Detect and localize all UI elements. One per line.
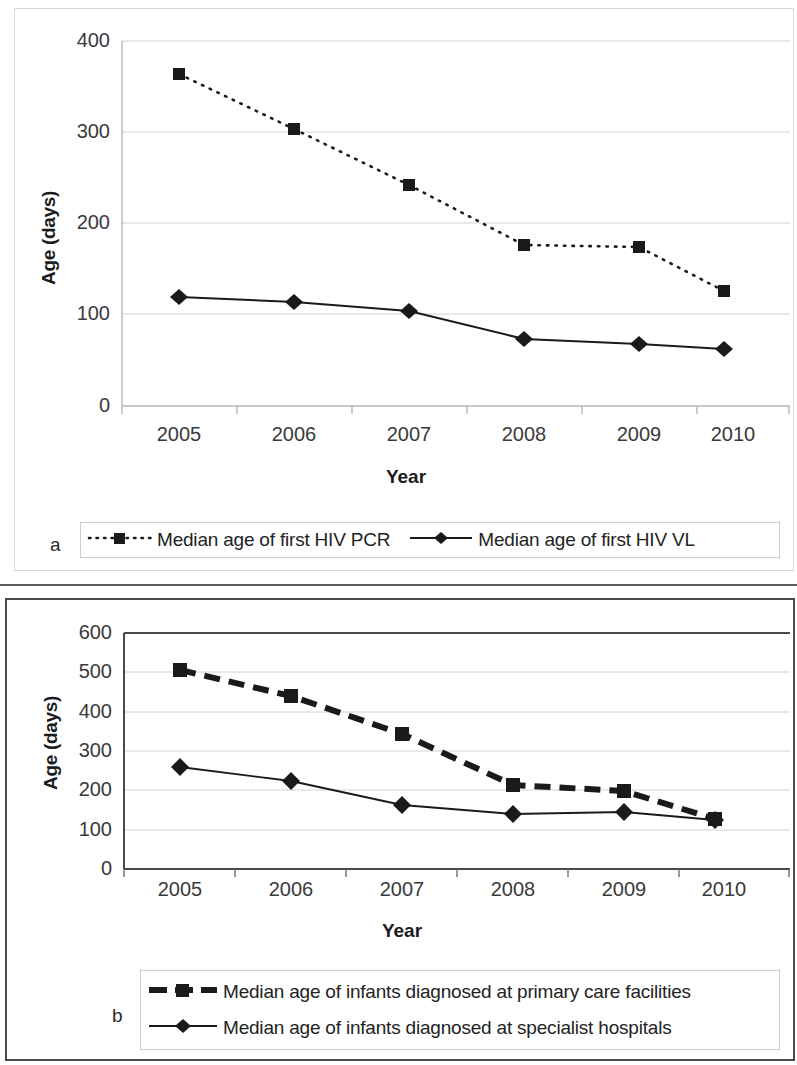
- panel-b-letter: b: [112, 1005, 123, 1027]
- panel-a-x-tick-2005: 2005: [139, 423, 219, 446]
- panel-b-x-tick-2009: 2009: [584, 878, 664, 901]
- legend-sample-solid-diamond-icon-b: [147, 1017, 219, 1039]
- panel-b-x-axis-title: Year: [357, 920, 447, 942]
- panel-a-legend-label-pcr: Median age of first HIV PCR: [157, 529, 390, 551]
- panel-a-x-tick-2008: 2008: [484, 423, 564, 446]
- legend-sample-solid-diamond-icon: [408, 530, 474, 550]
- panel-a-x-axis-title: Year: [361, 466, 451, 488]
- panel-a-legend-label-vl: Median age of first HIV VL: [478, 529, 695, 551]
- legend-sample-dashed-square-icon: [147, 981, 219, 1003]
- panel-a-x-tick-2007: 2007: [369, 423, 449, 446]
- panel-b-x-tick-2010: 2010: [684, 878, 764, 901]
- panel-a-plot: [0, 0, 797, 580]
- panel-a-legend: Median age of first HIV PCR Median age o…: [80, 522, 780, 558]
- figure-panel-b: Age (days) 600 500 400 300 200 100 0: [0, 580, 797, 1065]
- figure-panel-a: Age (days) 400 300 200 100 0: [0, 0, 797, 580]
- panel-b-x-tick-2006: 2006: [251, 878, 331, 901]
- panel-a-x-tick-2010: 2010: [693, 423, 773, 446]
- panel-b-x-tick-2005: 2005: [140, 878, 220, 901]
- panel-b-x-tick-2007: 2007: [362, 878, 442, 901]
- panel-b-legend-label-specialist: Median age of infants diagnosed at speci…: [223, 1017, 671, 1039]
- legend-sample-dotted-square-icon: [87, 530, 153, 550]
- panel-a-x-tick-2006: 2006: [254, 423, 334, 446]
- panel-b-legend-label-primary-care: Median age of infants diagnosed at prima…: [223, 981, 691, 1003]
- panel-b-legend: Median age of infants diagnosed at prima…: [140, 970, 780, 1050]
- panel-b-x-tick-2008: 2008: [473, 878, 553, 901]
- panel-a-x-tick-2009: 2009: [599, 423, 679, 446]
- panel-a-letter: a: [50, 534, 61, 556]
